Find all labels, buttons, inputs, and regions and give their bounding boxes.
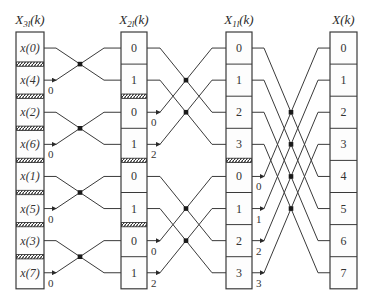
column-title-stage0: X3l(k) [14,12,44,29]
cell-stage1-4: 0 [131,169,137,183]
cell-stage3-3: 3 [341,137,347,151]
cell-stage3-4: 4 [341,169,347,183]
butterfly-node [78,126,83,131]
column-title-stage1: X2l(k) [118,12,148,29]
cell-stage0-2: x(2) [19,105,39,119]
cell-stage2-4: 0 [236,169,242,183]
twiddle-label: 0 [151,245,157,257]
cell-stage3-5: 5 [341,202,347,216]
cell-stage0-5: x(5) [19,202,39,216]
cell-stage3-2: 2 [341,105,347,119]
cell-stage2-0: 0 [236,41,242,55]
cell-stage2-5: 1 [236,202,242,216]
butterfly-node [289,110,294,115]
cell-stage2-7: 3 [236,266,242,280]
cell-stage1-2: 0 [131,105,137,119]
column-stage2: 01230123 [226,32,252,289]
column-title-stage3: X(k) [331,12,354,27]
cell-stage1-1: 1 [131,73,137,87]
butterfly-node [78,190,83,195]
twiddle-label: 3 [256,277,262,289]
hatch-separator [17,222,44,226]
hatch-separator [122,158,147,162]
cell-stage1-0: 0 [131,41,137,55]
butterfly-nodes [78,62,294,259]
cell-stage0-4: x(1) [19,169,39,183]
cell-stage3-6: 6 [341,234,347,248]
hatch-separator [17,255,44,259]
column-stage1: 01010101 [121,32,147,289]
cell-stage3-1: 1 [341,73,347,87]
cell-stage0-7: x(7) [19,266,39,280]
stage-columns: x(0)x(4)x(2)x(6)x(1)x(5)x(3)x(7)01010101… [16,32,357,289]
fft-butterfly-diagram: X3l(k)X2l(k)X1l(k)X(k) x(0)x(4)x(2)x(6)x… [0,0,372,304]
cell-stage1-6: 0 [131,234,137,248]
twiddle-label: 2 [151,277,157,289]
butterfly-node [184,238,189,243]
cell-stage2-2: 2 [236,105,242,119]
cell-stage0-3: x(6) [19,137,39,151]
hatch-separator [122,94,147,98]
cell-stage2-1: 1 [236,73,242,87]
column-stage0: x(0)x(4)x(2)x(6)x(1)x(5)x(3)x(7) [16,32,44,289]
butterfly-node [184,206,189,211]
cell-stage0-6: x(3) [19,234,39,248]
twiddle-label: 0 [48,84,54,96]
twiddle-label: 0 [256,180,262,192]
butterfly-node [289,142,294,147]
butterfly-node [289,174,294,179]
twiddle-label: 0 [151,116,157,128]
twiddle-label: 2 [151,148,157,160]
twiddle-label: 1 [256,213,262,225]
cell-stage0-1: x(4) [19,73,39,87]
cell-stage1-7: 1 [131,266,137,280]
twiddle-label: 0 [48,213,54,225]
butterfly-node [78,254,83,259]
hatch-separator [122,222,147,226]
cell-stage0-0: x(0) [19,41,39,55]
butterfly-node [184,110,189,115]
column-stage3: 01234567 [330,32,357,289]
butterfly-node [289,206,294,211]
cell-stage1-5: 1 [131,202,137,216]
twiddle-label: 0 [48,277,54,289]
cell-stage3-7: 7 [341,266,347,280]
column-title-stage2: X1l(k) [223,12,253,29]
hatch-separator [17,190,44,194]
twiddle-label: 0 [48,148,54,160]
hatch-separator [17,126,44,130]
column-titles: X3l(k)X2l(k)X1l(k)X(k) [14,12,354,29]
hatch-separator [17,158,44,162]
butterfly-node [78,62,83,67]
hatch-separator [227,158,252,162]
cell-stage2-6: 2 [236,234,242,248]
cell-stage1-3: 1 [131,137,137,151]
hatch-separator [17,94,44,98]
cell-stage2-3: 3 [236,137,242,151]
butterfly-node [184,78,189,83]
cell-stage3-0: 0 [341,41,347,55]
twiddle-label: 2 [256,245,262,257]
hatch-separator [17,62,44,66]
